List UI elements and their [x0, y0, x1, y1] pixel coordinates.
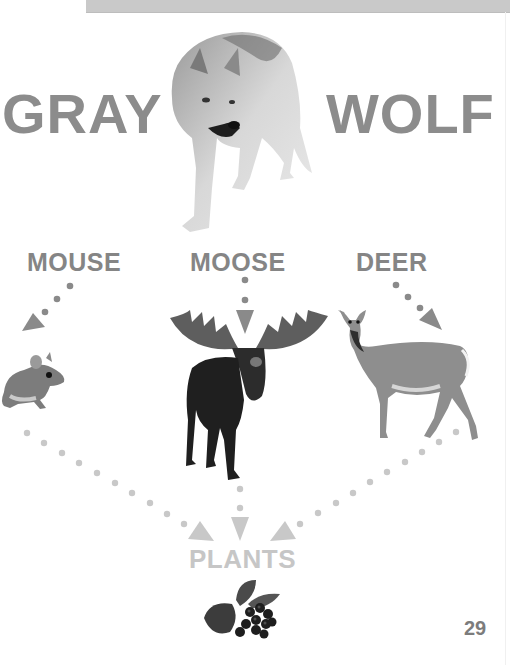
arrow-to-mouse [22, 283, 73, 331]
mouse-photo-icon [0, 352, 68, 417]
arrow-moose-to-plants [231, 486, 249, 541]
deer-photo-icon [336, 308, 484, 448]
label-plants: PLANTS [189, 547, 296, 572]
berries-plant-photo-icon [200, 578, 290, 643]
page-number: 29 [464, 617, 486, 640]
moose-photo-icon [168, 310, 330, 482]
